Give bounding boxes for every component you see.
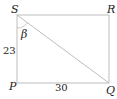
vertex-label-p: P bbox=[8, 80, 17, 93]
vertex-label-q: Q bbox=[106, 84, 115, 97]
angle-label-beta: β bbox=[20, 28, 27, 41]
vertex-label-r: R bbox=[106, 3, 115, 16]
vertex-label-s: S bbox=[11, 3, 19, 16]
rectangle-diagram: S R P Q β 23 30 bbox=[0, 0, 117, 99]
side-label-pq: 30 bbox=[55, 82, 68, 93]
diagonal-sq bbox=[17, 15, 109, 83]
side-label-sp: 23 bbox=[3, 45, 16, 56]
